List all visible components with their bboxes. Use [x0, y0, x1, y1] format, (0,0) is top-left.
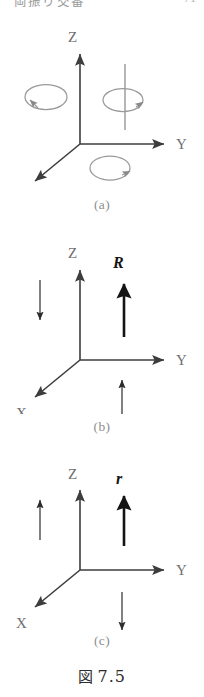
- axis-x: X: [16, 144, 80, 192]
- axis-x-line: [35, 570, 80, 607]
- panel-b-caption: (b): [0, 419, 204, 435]
- axis-label-z: Z: [68, 466, 77, 482]
- axis-x: X: [16, 360, 80, 414]
- rotation-arrow-x-icon: [25, 85, 67, 110]
- axis-label-y: Y: [176, 136, 187, 152]
- axis-label-y: Y: [176, 352, 187, 368]
- panel-a-caption: (a): [0, 197, 204, 213]
- axis-label-z: Z: [68, 29, 77, 45]
- axis-y: Y: [80, 562, 187, 578]
- axis-y: Y: [80, 136, 187, 152]
- vector-r: r: [116, 470, 124, 546]
- vector-r-label: r: [116, 470, 123, 487]
- rotation-arrow-z-icon: [103, 64, 143, 130]
- figure-number-kanji: 図: [78, 668, 94, 686]
- panel-c-caption: (c): [0, 633, 204, 649]
- axis-z: Z: [68, 29, 80, 144]
- figure-panel-a: Z Y X: [0, 22, 204, 192]
- rotation-arrow-y-icon: [90, 156, 130, 180]
- figure-number-value: 7.5: [98, 667, 126, 686]
- axis-z: Z: [68, 245, 80, 360]
- running-title: 両振り交番: [14, 0, 85, 9]
- axis-label-x: X: [16, 615, 27, 631]
- axis-label-x: X: [16, 405, 27, 414]
- figure-panel-c: Z Y X r: [0, 462, 204, 640]
- axis-x-line: [35, 144, 80, 181]
- page-number: 71: [184, 0, 196, 6]
- axis-label-x: X: [16, 191, 27, 192]
- axis-label-y: Y: [176, 562, 187, 578]
- vector-R: R: [112, 254, 124, 337]
- figure-number: 図7.5: [0, 665, 204, 686]
- page-header: 両振り交番 71: [0, 0, 204, 9]
- axis-x: X: [16, 570, 80, 631]
- axis-label-z: Z: [68, 245, 77, 261]
- axis-x-line: [35, 360, 80, 397]
- figure-panel-b: Z Y X R: [0, 242, 204, 414]
- vector-R-label: R: [112, 254, 124, 271]
- axis-y: Y: [80, 352, 187, 368]
- axis-z: Z: [68, 466, 80, 570]
